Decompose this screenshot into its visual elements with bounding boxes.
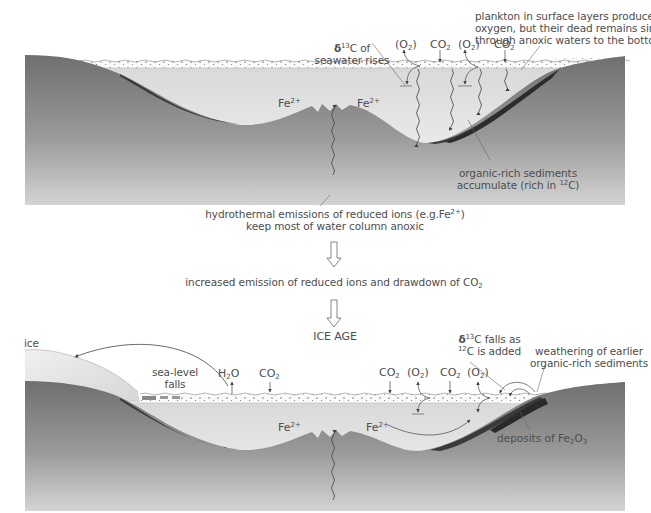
fe2-label-left: Fe2+ bbox=[278, 97, 301, 110]
bottom-cross-section bbox=[25, 344, 625, 511]
increased-emission-step: increased emission of reduced ions and d… bbox=[130, 276, 538, 288]
weathering-note: weathering of earlier organic-rich sedim… bbox=[527, 345, 651, 369]
deposits-note: deposits of Fe2O3 bbox=[497, 432, 587, 444]
co2-label-2: CO2 bbox=[494, 38, 515, 51]
co2-label-left: CO2 bbox=[259, 367, 280, 380]
delta13c-rises-label: δ13C of seawater rises bbox=[312, 42, 392, 66]
co2-label-b2: CO2 bbox=[440, 366, 461, 379]
sediments-note: organic-rich sediments accumulate (rich … bbox=[453, 167, 583, 191]
o2-label-b1: (O2) bbox=[407, 366, 429, 379]
fe2-label-b-left: Fe2+ bbox=[278, 421, 301, 434]
o2-label-1: (O2) bbox=[395, 38, 417, 51]
h2o-label: H2O bbox=[218, 367, 239, 380]
ice-label: ice bbox=[24, 337, 39, 349]
co2-label-1: CO2 bbox=[430, 38, 451, 51]
delta13c-falls-label: δ13C falls as 12C is added bbox=[452, 333, 527, 357]
fe2-label-right: Fe2+ bbox=[357, 97, 380, 110]
ice-age-label: ICE AGE bbox=[290, 331, 380, 343]
hydrothermal-note: hydrothermal emissions of reduced ions (… bbox=[170, 208, 500, 232]
co2-label-b1: CO2 bbox=[379, 366, 400, 379]
sea-level-falls-label: sea-level falls bbox=[145, 366, 205, 390]
o2-label-2: (O2) bbox=[458, 38, 480, 51]
fe2-label-b-right: Fe2+ bbox=[366, 421, 389, 434]
o2-label-b2: (O2) bbox=[467, 366, 489, 379]
